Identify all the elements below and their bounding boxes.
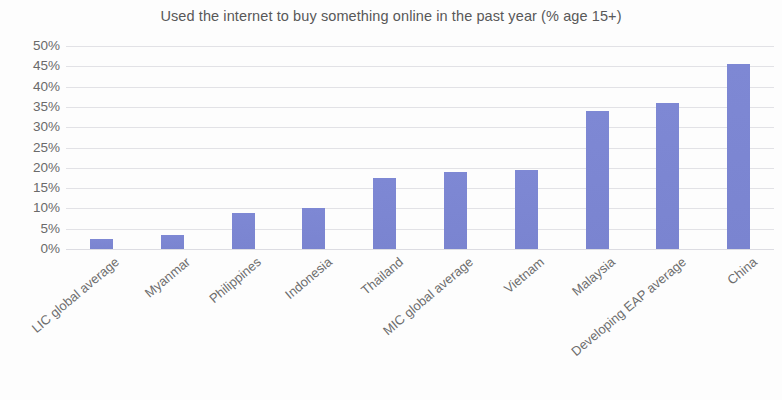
bar — [302, 208, 325, 249]
y-tick-label: 40% — [0, 80, 60, 94]
y-tick-label: 35% — [0, 100, 60, 114]
y-tick-label: 20% — [0, 161, 60, 175]
y-tick-label: 50% — [0, 39, 60, 53]
chart-title: Used the internet to buy something onlin… — [0, 8, 782, 24]
x-axis: LIC global averageMyanmarPhilippinesIndo… — [66, 249, 774, 399]
y-tick-label: 45% — [0, 60, 60, 74]
bar — [90, 239, 113, 249]
y-tick-label: 15% — [0, 181, 60, 195]
y-tick-label: 25% — [0, 141, 60, 155]
y-tick-label: 5% — [0, 222, 60, 236]
bars-layer — [66, 46, 774, 249]
bar — [586, 111, 609, 249]
y-axis: 50%45%40%35%30%25%20%15%10%5%0% — [0, 46, 60, 249]
bar — [656, 103, 679, 249]
bar — [444, 172, 467, 249]
bar-chart-figure: Used the internet to buy something onlin… — [0, 0, 782, 400]
bar — [161, 235, 184, 249]
bar — [232, 213, 255, 250]
y-tick-label: 10% — [0, 202, 60, 216]
y-tick-label: 0% — [0, 242, 60, 256]
bar — [515, 170, 538, 249]
y-tick-label: 30% — [0, 120, 60, 134]
bar — [727, 64, 750, 249]
bar — [373, 178, 396, 249]
